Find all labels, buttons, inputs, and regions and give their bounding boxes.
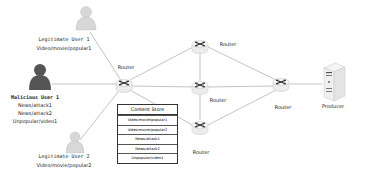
router-icon-right (273, 79, 289, 92)
link-top-right (206, 46, 276, 80)
producer-label: Producer (322, 102, 344, 111)
content-store-entry: News/attack1 (118, 134, 177, 144)
legit-user-1-request: Video/movie/popular1 (37, 44, 92, 53)
content-store-table: Content Store Video/movie/popular1 Video… (117, 104, 178, 164)
user-icon-legit2 (66, 132, 84, 153)
router-label-right: Router (275, 103, 292, 112)
router-label-middle: Router (210, 96, 227, 105)
legit-user-1-name: Legitimate User 1 (38, 35, 89, 44)
link-edge-top (130, 46, 195, 80)
user-icon-malicious (29, 64, 51, 90)
router-icon-middle (192, 82, 208, 95)
router-icon-edge (116, 80, 132, 93)
legit-user-2-name: Legitimate User 2 (38, 152, 89, 161)
link-edge-middle (132, 86, 194, 87)
router-icon-top (192, 41, 208, 54)
server-icon (324, 63, 345, 101)
router-icon-bottom (192, 122, 208, 135)
content-store-entry: Video/movie/popular1 (118, 115, 177, 125)
legit-user-2-request: Video/movie/popular2 (37, 161, 92, 170)
router-label-bottom: Router (193, 148, 210, 157)
link-legit2-edge (80, 92, 118, 140)
link-middle-right (207, 86, 274, 87)
content-store-entry: News/attack2 (118, 144, 177, 154)
malicious-request-3: Unpopular/video1 (13, 117, 57, 126)
link-legit1-edge (90, 32, 122, 82)
content-store-title: Content Store (118, 105, 177, 115)
router-label-edge: Router (118, 63, 135, 72)
user-icon-legit1 (76, 7, 96, 31)
content-store-entry: Unpopular/video1 (118, 153, 177, 163)
network-links (0, 0, 375, 176)
content-store-entry: Video/movie/popular2 (118, 125, 177, 135)
router-label-top: Router (220, 40, 237, 49)
